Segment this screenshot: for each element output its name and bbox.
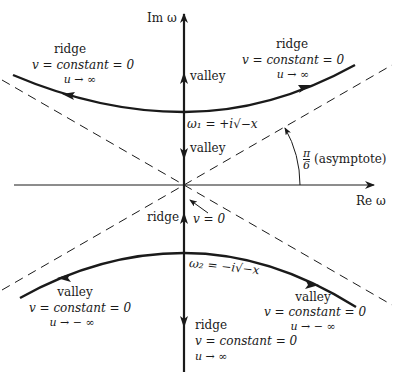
axis-valley-upper: valley — [190, 69, 226, 83]
angle-arc — [285, 128, 300, 185]
upper-left-line2: u → ∞ — [64, 73, 96, 87]
upper-left-line1: v = constant = 0 — [32, 58, 134, 72]
upper-left-type: ridge — [54, 42, 86, 56]
bottom-axis-type: ridge — [195, 318, 227, 332]
bottom-axis-line2: u → ∞ — [195, 350, 227, 364]
upper-right-type: ridge — [276, 37, 308, 51]
origin-v-label: v = 0 — [193, 212, 225, 226]
upper-right-line1: v = constant = 0 — [242, 53, 344, 67]
lower-right-type: valley — [295, 290, 331, 304]
real-axis-label: Re ω — [356, 194, 386, 208]
arrow-left-icon — [57, 274, 71, 282]
bottom-axis-line1: v = constant = 0 — [195, 334, 297, 348]
saddle-point-upper: ω₁ = +i√−x — [187, 117, 258, 131]
imag-axis-label: Im ω — [147, 11, 177, 25]
lower-left-line1: v = constant = 0 — [29, 301, 131, 315]
axis-valley-middle: valley — [190, 141, 226, 155]
angle-fraction: π 6 — [303, 148, 310, 171]
upper-right-line2: u → ∞ — [277, 68, 309, 82]
lower-right-line1: v = constant = 0 — [264, 305, 366, 319]
arrow-right-icon — [298, 85, 311, 93]
lower-left-type: valley — [57, 285, 93, 299]
angle-numerator: π — [303, 148, 310, 159]
lower-left-line2: u → − ∞ — [49, 316, 94, 330]
angle-label: π 6 (asymptote) — [303, 148, 387, 171]
axis-ridge-origin: ridge — [147, 210, 179, 224]
angle-suffix: (asymptote) — [314, 152, 387, 166]
asymptote-negative-slope — [2, 80, 392, 305]
lower-right-line2: u → − ∞ — [290, 320, 335, 334]
angle-denominator: 6 — [303, 159, 310, 171]
